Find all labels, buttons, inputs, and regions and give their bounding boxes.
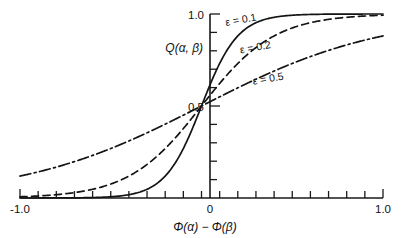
x-axis-max-tick-label: 1.0 <box>375 203 391 215</box>
series-label-2: ε = 0.2 <box>239 38 272 55</box>
y-axis-half-tick-label: 0.5 <box>188 101 204 113</box>
y-axis-max-tick-label: 1.0 <box>188 9 204 21</box>
series-annotations: ε = 0.1ε = 0.2ε = 0.5 <box>224 11 284 87</box>
y-axis <box>210 14 220 198</box>
chart-svg: -1.0 0 1.0 1.0 0.5 Φ(α) − Φ(β) Q(α, β) ε… <box>0 0 408 238</box>
x-axis-ticks <box>20 189 383 198</box>
series-label-3: ε = 0.5 <box>252 69 285 86</box>
chart-figure: -1.0 0 1.0 1.0 0.5 Φ(α) − Φ(β) Q(α, β) ε… <box>0 0 408 238</box>
x-axis-zero-tick-label: 0 <box>207 203 213 215</box>
y-axis-title: Q(α, β) <box>165 41 203 55</box>
x-axis-min-tick-label: -1.0 <box>10 203 30 215</box>
x-axis <box>20 189 383 198</box>
x-axis-title: Φ(α) − Φ(β) <box>173 220 236 234</box>
